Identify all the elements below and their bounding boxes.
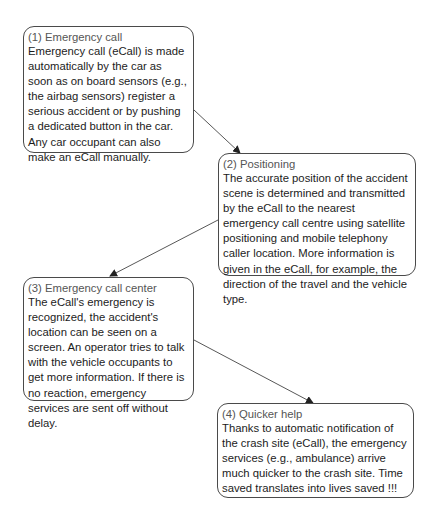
step-description: The accurate position of the accident sc… [223, 171, 411, 307]
arrow-2-to-3 [110, 220, 218, 276]
step-box-emergency-call: (1) Emergency call Emergency call (eCall… [23, 26, 194, 153]
step-title: (4) Quicker help [222, 407, 409, 421]
step-title: (2) Positioning [223, 157, 411, 171]
step-description: Thanks to automatic notification of the … [222, 421, 409, 496]
step-box-quicker-help: (4) Quicker help Thanks to automatic not… [217, 403, 414, 498]
step-title: (3) Emergency call center [28, 281, 189, 295]
step-title: (1) Emergency call [28, 30, 189, 44]
arrow-1-to-2 [194, 110, 240, 153]
step-box-emergency-call-center: (3) Emergency call center The eCall's em… [23, 277, 194, 401]
step-description: Emergency call (eCall) is made automatic… [28, 44, 189, 165]
arrow-3-to-4 [194, 340, 313, 403]
step-description: The eCall's emergency is recognized, the… [28, 295, 189, 431]
step-box-positioning: (2) Positioning The accurate position of… [218, 153, 416, 276]
